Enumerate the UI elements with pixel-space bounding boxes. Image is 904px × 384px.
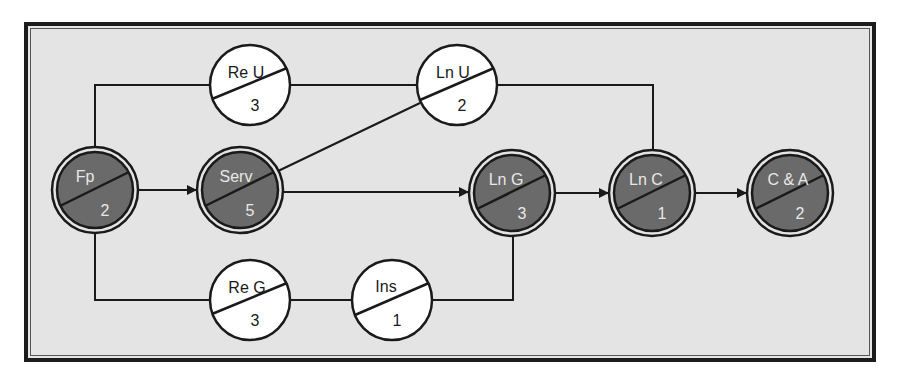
node-duration: 1	[658, 205, 667, 222]
node-lnc[interactable]: Ln C 1	[609, 150, 695, 236]
node-lnu[interactable]: Ln U 2	[417, 45, 497, 125]
diagram-canvas: Fp 2 Serv 5 Ln G 3 Ln C 1	[0, 0, 904, 384]
node-serv[interactable]: Serv 5	[197, 147, 283, 233]
node-label: C & A	[768, 171, 809, 188]
edge-fp-reu	[95, 85, 210, 148]
node-duration: 2	[458, 97, 467, 114]
edge-lnu-lnc	[497, 85, 653, 151]
edge-serv-lnu	[276, 103, 420, 172]
node-duration: 3	[251, 312, 260, 329]
network-diagram: Fp 2 Serv 5 Ln G 3 Ln C 1	[0, 0, 904, 384]
node-reu[interactable]: Re U 3	[210, 45, 290, 125]
node-duration: 1	[393, 312, 402, 329]
node-label: Re U	[228, 64, 264, 81]
node-label: Ln C	[629, 171, 663, 188]
node-duration: 3	[518, 205, 527, 222]
node-label: Re G	[228, 279, 265, 296]
node-ins[interactable]: Ins 1	[352, 260, 432, 340]
node-ca[interactable]: C & A 2	[747, 150, 833, 236]
node-fp[interactable]: Fp 2	[52, 147, 138, 233]
node-label: Serv	[220, 168, 253, 185]
node-duration: 5	[246, 202, 255, 219]
edge-ins-lng	[432, 236, 513, 300]
edge-fp-reg	[95, 232, 210, 300]
node-reg[interactable]: Re G 3	[210, 260, 290, 340]
node-label: Ins	[375, 278, 396, 295]
node-duration: 2	[101, 202, 110, 219]
node-lng[interactable]: Ln G 3	[469, 150, 555, 236]
node-label: Ln G	[489, 171, 524, 188]
node-label: Ln U	[436, 64, 470, 81]
node-duration: 2	[796, 205, 805, 222]
node-label: Fp	[76, 168, 95, 185]
node-duration: 3	[251, 97, 260, 114]
